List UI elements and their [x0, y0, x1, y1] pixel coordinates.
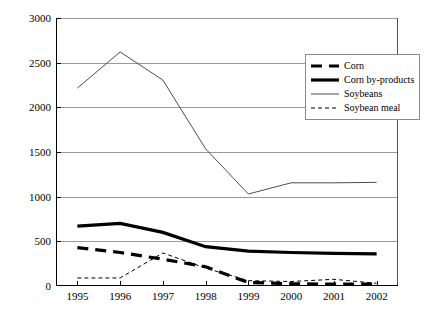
legend-item[interactable]: Soybean meal [310, 101, 414, 115]
line-chart: 050010001500200025003000 199519961997199… [0, 0, 424, 327]
x-tick-label: 1998 [195, 290, 217, 302]
y-axis-tick-labels: 050010001500200025003000 [0, 18, 51, 286]
x-tick-label: 1995 [66, 290, 88, 302]
y-tick-label: 2000 [29, 101, 51, 113]
series-line [77, 253, 376, 283]
legend-label: Corn [344, 60, 364, 72]
legend-swatch [310, 74, 340, 86]
y-tick-label: 3000 [29, 12, 51, 24]
x-tick-label: 1999 [237, 290, 259, 302]
legend-label: Corn by-products [344, 74, 414, 86]
x-tick-label: 1996 [109, 290, 131, 302]
series-line [77, 223, 376, 253]
legend-item[interactable]: Soybeans [310, 87, 414, 101]
x-tick-label: 2002 [366, 290, 388, 302]
x-axis-tick-labels: 19951996199719981999200020012002 [56, 290, 398, 310]
legend-label: Soybean meal [344, 102, 400, 114]
y-tick-label: 1000 [29, 191, 51, 203]
y-tick-label: 0 [46, 280, 52, 292]
y-tick-label: 2500 [29, 57, 51, 69]
y-tick-label: 500 [35, 235, 52, 247]
legend-item[interactable]: Corn [310, 59, 414, 73]
legend-swatch [310, 60, 340, 72]
chart-legend: CornCorn by-productsSoybeansSoybean meal [305, 54, 420, 120]
legend-swatch [310, 88, 340, 100]
y-tick-label: 1500 [29, 146, 51, 158]
legend-label: Soybeans [344, 88, 382, 100]
x-tick-label: 1997 [152, 290, 174, 302]
x-tick-label: 2000 [280, 290, 302, 302]
x-tick-label: 2001 [323, 290, 345, 302]
legend-swatch [310, 102, 340, 114]
legend-item[interactable]: Corn by-products [310, 73, 414, 87]
